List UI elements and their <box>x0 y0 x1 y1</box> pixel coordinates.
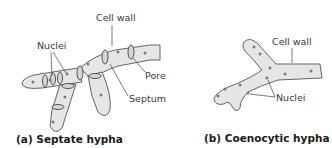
septum-label: Septum <box>129 93 166 104</box>
caption-septate-hypha: (a) Septate hypha <box>16 133 123 145</box>
pore-label: Pore <box>145 70 166 81</box>
nuclei-label-a: Nuclei <box>37 40 66 51</box>
caption-coenocytic-hypha: (b) Coenocytic hypha <box>204 132 329 144</box>
cell-wall-label-a: Cell wall <box>96 12 136 23</box>
hypha-diagram: Cell wall Nuclei Pore Septum (a) Septate… <box>0 0 332 148</box>
nuclei-label-b: Nuclei <box>276 92 305 103</box>
coenocytic-hypha-illustration <box>214 39 322 110</box>
cell-wall-label-b: Cell wall <box>272 36 312 47</box>
